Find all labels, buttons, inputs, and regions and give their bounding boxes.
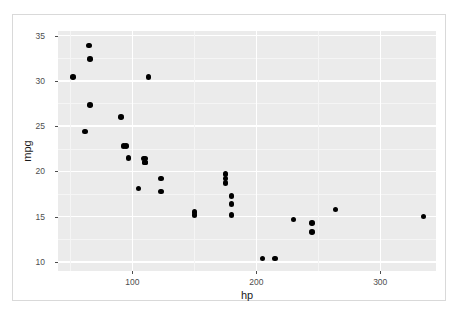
x-tick-label: 300 xyxy=(373,277,387,287)
x-tick-mark xyxy=(380,271,381,274)
y-tick-mark xyxy=(55,217,58,218)
x-axis: 100200300 xyxy=(13,15,447,302)
y-tick-mark xyxy=(55,36,58,37)
plot-frame: 101520253035 100200300 mpg hp xyxy=(12,14,446,301)
x-axis-title: hp xyxy=(58,289,436,301)
y-tick-mark xyxy=(55,262,58,263)
x-tick-label: 100 xyxy=(125,277,139,287)
y-tick-mark xyxy=(55,171,58,172)
scatter-plot: 101520253035 100200300 mpg hp xyxy=(13,15,447,302)
x-tick-mark xyxy=(256,271,257,274)
x-tick-label: 200 xyxy=(249,277,263,287)
y-axis-title: mpg xyxy=(21,140,33,161)
y-tick-mark xyxy=(55,126,58,127)
y-tick-mark xyxy=(55,81,58,82)
x-tick-mark xyxy=(132,271,133,274)
